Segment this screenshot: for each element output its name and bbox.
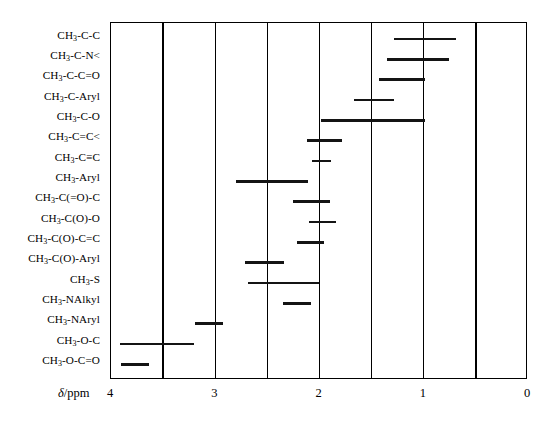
gridline bbox=[267, 23, 268, 378]
shift-range-bar bbox=[283, 302, 311, 305]
gridline bbox=[162, 23, 163, 378]
row-label-subscript: 3 bbox=[86, 278, 90, 287]
row-label-subscript: 3 bbox=[43, 237, 47, 246]
x-tick-label: 0 bbox=[524, 387, 530, 400]
row-label-subscript: 3 bbox=[59, 74, 63, 83]
row-label-rest: -NAryl bbox=[67, 313, 100, 325]
row-label-subscript: 3 bbox=[71, 156, 75, 165]
row-label-stem: CH bbox=[57, 110, 73, 122]
row-label-subscript: 3 bbox=[58, 359, 62, 368]
shift-range-bar bbox=[307, 139, 342, 142]
row-label-stem: CH bbox=[42, 354, 58, 366]
row-label-rest: -C=C< bbox=[68, 130, 100, 142]
row-label: CH3-NAryl bbox=[47, 314, 100, 326]
row-label-rest: -O-C=O bbox=[62, 354, 100, 366]
row-label-rest: -NAlkyl bbox=[62, 293, 100, 305]
row-label-subscript: 3 bbox=[51, 196, 55, 205]
row-label: CH3-C-C=O bbox=[43, 70, 100, 82]
row-label: CH3-C(O)-Aryl bbox=[28, 253, 100, 265]
row-label: CH3-C-C bbox=[57, 30, 100, 42]
row-label-stem: CH bbox=[44, 90, 60, 102]
row-label: CH3-C-O bbox=[57, 111, 100, 123]
shift-range-bar bbox=[245, 261, 284, 264]
row-label-rest: -Aryl bbox=[75, 171, 100, 183]
row-label: CH3-C-Aryl bbox=[44, 91, 100, 103]
row-label-subscript: 3 bbox=[72, 339, 76, 348]
row-label-stem: CH bbox=[41, 212, 57, 224]
row-label-stem: CH bbox=[55, 171, 71, 183]
row-label-subscript: 3 bbox=[71, 176, 75, 185]
row-label: CH3-C≡C bbox=[55, 152, 100, 164]
row-label: CH3-C(=O)-C bbox=[35, 192, 100, 204]
row-label-rest: -C-C=O bbox=[63, 69, 100, 81]
axis-title: δ/ppm bbox=[58, 387, 90, 400]
shift-range-bar bbox=[195, 322, 222, 325]
shift-range-bar bbox=[321, 119, 425, 122]
row-label-stem: CH bbox=[57, 334, 73, 346]
shift-range-bar bbox=[248, 282, 320, 285]
row-label-stem: CH bbox=[47, 313, 63, 325]
row-label-stem: CH bbox=[42, 293, 58, 305]
shift-range-bar bbox=[309, 221, 336, 224]
chemical-shift-chart: CH3-C-CCH3-C-N<CH3-C-C=OCH3-C-ArylCH3-C-… bbox=[0, 0, 550, 432]
shift-range-bar bbox=[236, 180, 308, 183]
shift-range-bar bbox=[297, 241, 324, 244]
row-label-stem: CH bbox=[35, 191, 51, 203]
row-label-stem: CH bbox=[28, 252, 44, 264]
row-label: CH3-C=C< bbox=[48, 131, 100, 143]
x-tick-label: 4 bbox=[107, 387, 113, 400]
gridline bbox=[371, 23, 372, 378]
row-label: CH3-O-C=O bbox=[42, 355, 100, 367]
shift-range-bar bbox=[120, 343, 194, 346]
row-label-rest: -C-C bbox=[77, 29, 100, 41]
row-label-rest: -C-N< bbox=[70, 49, 100, 61]
gridline bbox=[475, 23, 476, 378]
row-label-subscript: 3 bbox=[63, 318, 67, 327]
shift-range-bar bbox=[394, 38, 457, 41]
row-label-subscript: 3 bbox=[44, 257, 48, 266]
row-label-stem: CH bbox=[70, 273, 86, 285]
row-label: CH3-C(O)-O bbox=[41, 213, 100, 225]
row-label-rest: -S bbox=[90, 273, 100, 285]
row-label-rest: -C(O)-Aryl bbox=[48, 252, 100, 264]
row-label-subscript: 3 bbox=[72, 115, 76, 124]
row-label: CH3-C(O)-C=C bbox=[28, 233, 100, 245]
row-label: CH3-NAlkyl bbox=[42, 294, 100, 306]
row-label-subscript: 3 bbox=[66, 54, 70, 63]
row-label-subscript: 3 bbox=[58, 298, 62, 307]
row-label-rest: -C(O)-C=C bbox=[47, 232, 100, 244]
shift-range-bar bbox=[293, 200, 329, 203]
row-label-subscript: 3 bbox=[73, 34, 77, 43]
shift-range-bar bbox=[387, 58, 449, 61]
axis-title-unit: /ppm bbox=[64, 386, 90, 400]
row-label-stem: CH bbox=[57, 29, 73, 41]
row-label-stem: CH bbox=[48, 130, 64, 142]
row-label-rest: -O-C bbox=[77, 334, 100, 346]
row-label-subscript: 3 bbox=[60, 95, 64, 104]
shift-range-bar bbox=[354, 99, 394, 102]
shift-range-bar bbox=[379, 78, 425, 81]
shift-range-bar bbox=[121, 363, 148, 366]
row-label-subscript: 3 bbox=[57, 217, 61, 226]
x-tick-label: 3 bbox=[211, 387, 217, 400]
row-label: CH3-S bbox=[70, 274, 100, 286]
row-label: CH3-O-C bbox=[57, 335, 100, 347]
gridline bbox=[423, 23, 424, 378]
row-label-column: CH3-C-CCH3-C-N<CH3-C-C=OCH3-C-ArylCH3-C-… bbox=[0, 0, 104, 380]
row-label-subscript: 3 bbox=[64, 135, 68, 144]
row-label-rest: -C(=O)-C bbox=[55, 191, 100, 203]
row-label-rest: -C-Aryl bbox=[64, 90, 100, 102]
row-label-rest: -C≡C bbox=[75, 151, 100, 163]
row-label-stem: CH bbox=[43, 69, 59, 81]
row-label-stem: CH bbox=[28, 232, 44, 244]
shift-range-bar bbox=[312, 160, 331, 163]
row-label-stem: CH bbox=[50, 49, 66, 61]
plot-area bbox=[110, 22, 527, 379]
x-tick-label: 1 bbox=[420, 387, 426, 400]
row-label: CH3-C-N< bbox=[50, 50, 100, 62]
row-label-rest: -C(O)-O bbox=[61, 212, 100, 224]
x-tick-label: 2 bbox=[315, 387, 321, 400]
row-label-rest: -C-O bbox=[77, 110, 100, 122]
row-label: CH3-Aryl bbox=[55, 172, 100, 184]
row-label-stem: CH bbox=[55, 151, 71, 163]
